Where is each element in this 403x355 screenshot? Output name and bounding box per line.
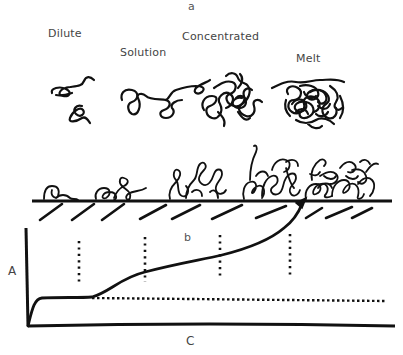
surface-coil-3 <box>169 163 226 199</box>
polymer-regime-figure <box>0 0 403 355</box>
concentrated-coils <box>202 73 262 126</box>
surface-coil-4 <box>243 145 300 199</box>
graph-axes <box>26 228 395 326</box>
solid-curve <box>28 204 302 326</box>
vertical-dotted-markers <box>79 234 290 283</box>
solution-coils <box>121 80 210 118</box>
dotted-plateau-line <box>92 298 386 301</box>
surface-hatch-marks <box>40 204 372 220</box>
surface-coil-5 <box>306 159 378 199</box>
surface-coil-1 <box>44 186 78 200</box>
surface-coil-2 <box>95 178 146 200</box>
dilute-coils <box>52 77 94 123</box>
melt-coils <box>272 80 344 129</box>
